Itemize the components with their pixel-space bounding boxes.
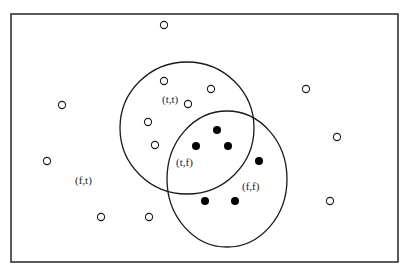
open-point-icon: [326, 197, 333, 204]
filled-point-icon: [231, 197, 239, 205]
open-point-icon: [151, 141, 158, 148]
open-point-icon: [97, 213, 104, 220]
region-label: (t,f): [176, 156, 193, 169]
set-circles: [120, 62, 287, 247]
region-label: (t,t): [162, 93, 179, 106]
region-label: (f,t): [75, 174, 92, 187]
region-label: (f,f): [242, 180, 260, 193]
open-point-icon: [333, 133, 340, 140]
filled-point-icon: [201, 197, 209, 205]
filled-point-icon: [213, 126, 221, 134]
open-points: [43, 21, 340, 220]
circle-b: [167, 111, 287, 247]
open-point-icon: [144, 118, 151, 125]
open-point-icon: [207, 85, 214, 92]
open-point-icon: [58, 101, 65, 108]
open-point-icon: [145, 213, 152, 220]
venn-diagram: (t,t)(t,f)(f,f)(f,t): [0, 0, 406, 273]
open-point-icon: [43, 157, 50, 164]
filled-point-icon: [255, 157, 263, 165]
open-point-icon: [184, 100, 191, 107]
filled-point-icon: [192, 142, 200, 150]
open-point-icon: [302, 85, 309, 92]
filled-points: [192, 126, 263, 205]
filled-point-icon: [224, 142, 232, 150]
open-point-icon: [160, 77, 167, 84]
open-point-icon: [160, 21, 167, 28]
